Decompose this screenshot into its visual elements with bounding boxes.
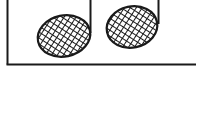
note-1 <box>34 0 94 62</box>
note-head-icon <box>34 10 94 61</box>
notes-figure <box>0 0 197 133</box>
note-2 <box>103 0 161 52</box>
note-head-icon <box>103 2 161 53</box>
frame <box>7 0 197 65</box>
